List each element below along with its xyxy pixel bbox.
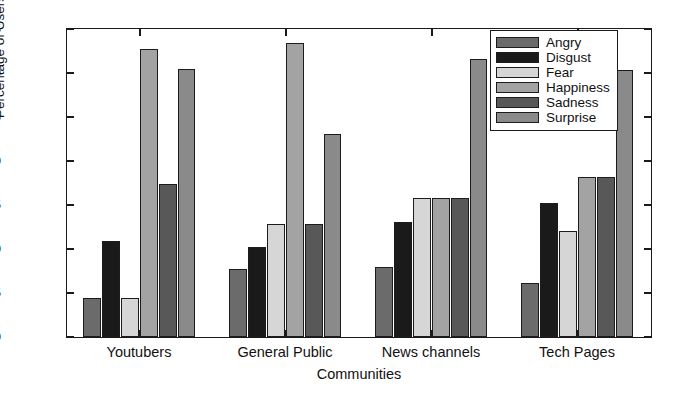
bar <box>267 224 285 337</box>
legend-item: Sadness <box>496 96 610 111</box>
x-category-label: Youtubers <box>107 344 172 360</box>
legend-label: Happiness <box>546 81 610 95</box>
bar <box>375 267 393 337</box>
legend-swatch <box>496 67 539 78</box>
bar <box>451 198 469 337</box>
bar <box>413 198 431 337</box>
chart-legend: AngryDisgustFearHappinessSadnessSurprise <box>490 30 618 131</box>
y-tick-label: 15 <box>0 197 1 212</box>
legend-swatch <box>496 82 539 93</box>
y-tick-label: 25 <box>0 109 1 124</box>
x-tick-mark <box>139 29 140 36</box>
x-category-label: News channels <box>382 344 480 360</box>
y-tick-mark <box>644 248 651 249</box>
x-tick-mark <box>431 29 432 36</box>
bar <box>324 134 342 337</box>
legend-swatch <box>496 112 539 123</box>
legend-label: Surprise <box>546 111 596 125</box>
y-tick-mark <box>644 160 651 161</box>
legend-item: Angry <box>496 36 610 51</box>
y-tick-label: 30 <box>0 65 1 80</box>
legend-item: Disgust <box>496 51 610 66</box>
bar <box>178 69 196 337</box>
legend-label: Angry <box>546 36 581 50</box>
y-tick-mark <box>644 292 651 293</box>
legend-item: Surprise <box>496 111 610 126</box>
y-tick-label: 10 <box>0 241 1 256</box>
bar <box>248 247 266 337</box>
y-tick-mark <box>644 28 651 29</box>
legend-label: Disgust <box>546 51 591 65</box>
y-tick-mark <box>67 336 74 337</box>
bar <box>83 298 101 337</box>
y-tick-mark <box>644 72 651 73</box>
bar <box>521 283 539 337</box>
legend-label: Fear <box>546 66 574 80</box>
bar <box>102 241 120 337</box>
bar <box>616 70 634 337</box>
x-tick-mark <box>285 29 286 36</box>
y-tick-label: 0 <box>0 329 1 344</box>
bar <box>597 177 615 337</box>
bar <box>559 231 577 337</box>
bar <box>578 177 596 337</box>
bar-chart-figure: Percentage of Users Communities AngryDis… <box>0 0 679 394</box>
y-axis-label: Percentage of Users <box>0 0 7 118</box>
x-axis-label: Communities <box>66 366 652 382</box>
legend-label: Sadness <box>546 96 599 110</box>
bar <box>470 59 488 337</box>
y-tick-mark <box>67 292 74 293</box>
y-tick-mark <box>67 72 74 73</box>
y-tick-mark <box>67 160 74 161</box>
bar <box>121 298 139 337</box>
bar <box>432 198 450 337</box>
bar <box>394 222 412 337</box>
x-category-label: Tech Pages <box>539 344 615 360</box>
y-tick-mark <box>67 116 74 117</box>
y-tick-label: 35 <box>0 21 1 36</box>
y-tick-label: 5 <box>0 285 1 300</box>
legend-item: Fear <box>496 66 610 81</box>
bar <box>286 43 304 337</box>
legend-swatch <box>496 52 539 63</box>
x-category-label: General Public <box>237 344 332 360</box>
y-tick-mark <box>67 248 74 249</box>
y-tick-mark <box>67 28 74 29</box>
y-tick-mark <box>644 336 651 337</box>
legend-item: Happiness <box>496 81 610 96</box>
bar <box>540 203 558 337</box>
y-tick-mark <box>644 116 651 117</box>
bar <box>305 224 323 337</box>
bar <box>229 269 247 337</box>
y-tick-mark <box>67 204 74 205</box>
bar <box>140 49 158 337</box>
y-tick-mark <box>644 204 651 205</box>
bar <box>159 184 177 337</box>
legend-swatch <box>496 97 539 108</box>
y-tick-label: 20 <box>0 153 1 168</box>
legend-swatch <box>496 37 539 48</box>
